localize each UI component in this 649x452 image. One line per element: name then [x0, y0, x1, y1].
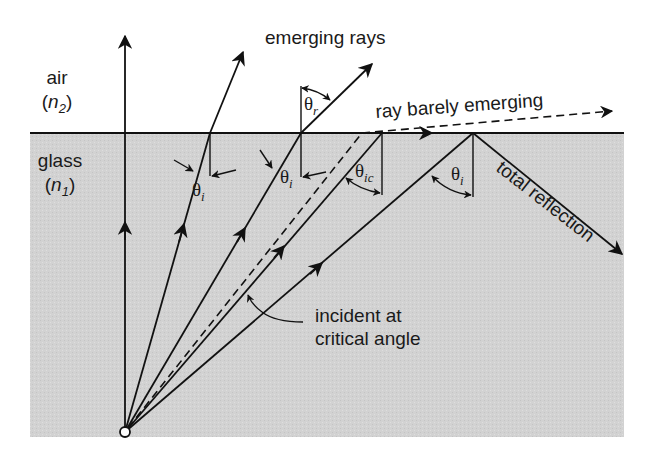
ray-1-emerging	[210, 52, 243, 133]
ray-barely-emerging-label: ray barely emerging	[375, 89, 544, 122]
ray-2-theta-r: θr	[304, 93, 319, 118]
air-label: air	[46, 67, 68, 88]
incident-label-line2: critical angle	[315, 328, 421, 349]
refraction-diagram: air (n2) glass (n1) θi θi θr θic θi emer…	[0, 0, 649, 452]
glass-label: glass	[38, 150, 82, 171]
incident-label-line1: incident at	[315, 305, 402, 326]
light-source-point	[120, 427, 130, 437]
air-index-label: (n2)	[42, 91, 72, 116]
emerging-rays-label: emerging rays	[265, 27, 385, 48]
